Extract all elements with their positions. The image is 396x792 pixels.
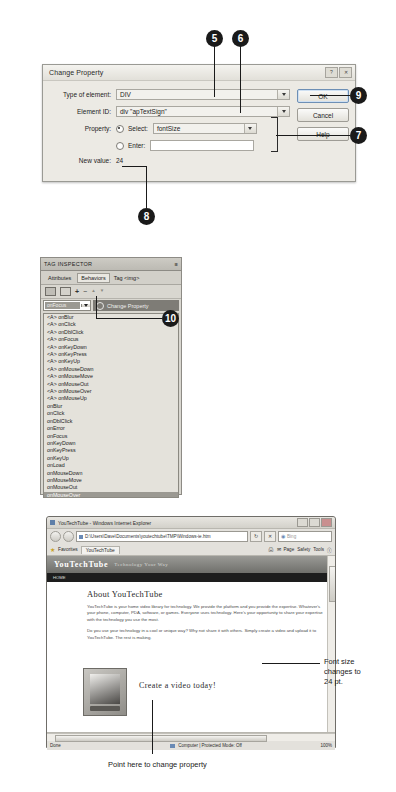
nav-item-home[interactable]: HOME <box>53 575 66 580</box>
search-input[interactable]: ◉ Bing <box>278 531 332 542</box>
site-name: YouTechTube <box>54 560 108 569</box>
page-paragraph-2: Do you use your technology in a cool or … <box>87 628 325 641</box>
callout-leader-8-h <box>122 166 146 167</box>
list-item[interactable]: onMouseMove <box>44 477 178 484</box>
command-safety[interactable]: Safety <box>297 547 310 552</box>
list-item[interactable]: onMouseDown <box>44 470 178 477</box>
callout-leader-8-v <box>146 166 147 208</box>
page-content: About YouTechTube YouTechTube is your ho… <box>47 582 335 641</box>
print-icon[interactable]: 🖨 <box>268 547 274 552</box>
help-button[interactable]: Help <box>297 127 349 141</box>
close-button[interactable] <box>321 518 332 527</box>
command-bar: 🖨 ✉ Page Safety Tools ⓘ <box>268 547 333 553</box>
list-item[interactable]: <A> onKeyPress <box>44 351 178 358</box>
list-item[interactable]: <A> onMouseMove <box>44 373 178 380</box>
property-enter-radio-label: Enter: <box>128 142 145 149</box>
move-up-icon[interactable]: ▲ <box>91 289 95 294</box>
element-id-dropdown-arrow[interactable] <box>277 107 289 116</box>
property-select-combo[interactable]: fontSize <box>153 123 257 134</box>
video-thumbnail-image <box>90 674 120 704</box>
property-enter-input[interactable] <box>150 140 254 151</box>
list-item[interactable]: <A> onClick <box>44 321 178 328</box>
type-of-element-dropdown-arrow[interactable] <box>277 90 289 99</box>
list-item[interactable]: onKeyDown <box>44 440 178 447</box>
help-icon[interactable]: ⓘ <box>327 547 332 553</box>
add-behavior-icon[interactable]: + <box>75 288 79 295</box>
list-item[interactable]: <A> onKeyUp <box>44 358 178 365</box>
horizontal-scrollbar-thumb[interactable] <box>55 735 267 742</box>
list-item[interactable]: onDblClick <box>44 418 178 425</box>
back-button-icon[interactable] <box>50 531 61 542</box>
property-select-radio[interactable] <box>116 125 124 133</box>
list-item[interactable]: onFocus <box>44 433 178 440</box>
property-select-dropdown-arrow[interactable] <box>244 124 256 133</box>
browser-tab[interactable]: YouTechTube <box>81 546 120 554</box>
maximize-button[interactable] <box>309 518 320 527</box>
stop-icon[interactable]: ✕ <box>264 531 276 542</box>
horizontal-scrollbar[interactable] <box>47 733 335 741</box>
show-set-events-icon[interactable] <box>45 287 56 296</box>
list-item[interactable]: onClick <box>44 410 178 417</box>
command-page[interactable]: Page <box>284 547 295 552</box>
property-select-radio-label: Select: <box>128 125 148 132</box>
list-item[interactable]: onKeyUp <box>44 455 178 462</box>
list-item[interactable]: onBlur <box>44 403 178 410</box>
ok-button[interactable]: OK <box>297 89 349 103</box>
event-selector-combo[interactable]: onFocus <box>43 300 91 311</box>
element-id-select[interactable]: div "apTextSign" <box>116 106 290 117</box>
callout-marker-9: 9 <box>350 87 367 104</box>
page-heading: About YouTechTube <box>87 589 325 599</box>
type-of-element-label: Type of element: <box>49 91 116 98</box>
tab-behaviors[interactable]: Behaviors <box>77 273 109 283</box>
video-thumbnail[interactable] <box>83 668 127 716</box>
cancel-button[interactable]: Cancel <box>297 108 349 122</box>
callout-leader-10-h <box>96 318 162 319</box>
minimize-button[interactable] <box>297 518 308 527</box>
favorites-star-icon[interactable]: ★ <box>50 547 55 553</box>
list-item[interactable]: <A> onMouseUp <box>44 395 178 402</box>
remove-behavior-icon[interactable]: − <box>83 288 87 295</box>
list-item[interactable]: onMouseOut <box>44 484 178 491</box>
list-item-selected[interactable]: onMouseOver <box>44 492 178 498</box>
command-tools[interactable]: Tools <box>313 547 324 552</box>
list-item[interactable]: <A> onKeyDown <box>44 344 178 351</box>
show-all-events-icon[interactable] <box>60 287 71 296</box>
address-bar[interactable]: D:\Users\Dave\Documents\youtechtube\TMP\… <box>76 531 248 542</box>
forward-button-icon[interactable] <box>63 531 74 542</box>
vertical-scrollbar[interactable] <box>327 556 335 732</box>
list-item[interactable]: <A> onDblClick <box>44 329 178 336</box>
status-zoom-level[interactable]: 100% <box>298 743 332 748</box>
close-window-button[interactable]: ✕ <box>339 67 352 78</box>
event-selector-dropdown-arrow[interactable] <box>81 304 90 307</box>
new-value-input[interactable]: 24 <box>116 157 123 164</box>
panel-menu-icon[interactable]: ≡ <box>174 261 178 267</box>
list-item[interactable]: onLoad <box>44 462 178 469</box>
behavior-action-row[interactable]: Change Property <box>93 300 179 311</box>
list-item[interactable]: <A> onFocus <box>44 336 178 343</box>
dialog-titlebar: Change Property ? ✕ <box>43 65 355 81</box>
vertical-scrollbar-thumb[interactable] <box>329 566 335 602</box>
tag-name-label: Tag <img> <box>112 275 140 281</box>
cta-text-sign[interactable]: Create a video today! <box>139 674 216 692</box>
event-list[interactable]: <A> onBlur <A> onClick <A> onDblClick <A… <box>43 313 179 498</box>
tag-inspector-tabs: Attributes Behaviors Tag <img> <box>41 271 181 285</box>
video-controls-bar[interactable] <box>90 706 120 711</box>
list-item[interactable]: onError <box>44 425 178 432</box>
read-mail-icon[interactable]: ✉ <box>277 547 281 552</box>
list-item[interactable]: <A> onMouseOut <box>44 381 178 388</box>
type-of-element-select[interactable]: DIV <box>116 89 290 100</box>
chevron-down-icon <box>282 93 286 96</box>
search-icon: ◉ <box>281 534 285 539</box>
list-item[interactable]: <A> onMouseOver <box>44 388 178 395</box>
annotation-point-here: Point here to change property <box>108 760 207 770</box>
property-enter-radio[interactable] <box>116 142 124 150</box>
favorites-bar: ★ Favorites YouTechTube 🖨 ✉ Page Safety … <box>47 544 335 556</box>
help-window-button[interactable]: ? <box>325 67 338 78</box>
tab-attributes[interactable]: Attributes <box>44 273 75 283</box>
refresh-icon[interactable]: ↻ <box>250 531 262 542</box>
list-item[interactable]: onKeyPress <box>44 447 178 454</box>
move-down-icon[interactable]: ▼ <box>100 289 104 294</box>
list-item[interactable]: <A> onMouseDown <box>44 366 178 373</box>
browser-title: YouTechTube - Windows Internet Explorer <box>58 520 151 526</box>
favorites-label[interactable]: Favorites <box>58 547 78 552</box>
